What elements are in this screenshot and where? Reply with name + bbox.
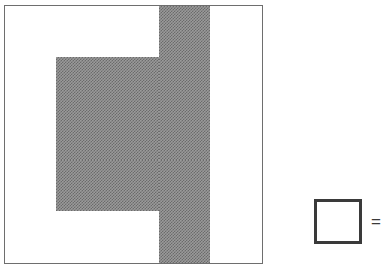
legend: = [314, 199, 381, 244]
grid-cell [159, 211, 212, 264]
grid-cell [56, 211, 109, 264]
grid-cell [210, 5, 263, 58]
grid-cell [4, 211, 57, 264]
grid-cell [159, 108, 212, 161]
grid-cell [4, 5, 57, 58]
legend-swatch-unshaded-square [314, 199, 362, 244]
grid-cell [210, 211, 263, 264]
grid-cell [159, 5, 212, 58]
shaded-grid [4, 5, 222, 264]
grid-cell [159, 160, 212, 213]
grid-cell [4, 108, 57, 161]
grid-cell [4, 57, 57, 110]
grid-cell [4, 160, 57, 213]
grid-cell [159, 57, 212, 110]
grid-cell [56, 108, 109, 161]
grid-cell [107, 160, 160, 213]
grid-cell [107, 57, 160, 110]
grid-cell [56, 57, 109, 110]
grid-cell [107, 108, 160, 161]
grid-cell [56, 160, 109, 213]
grid-cell [210, 160, 263, 213]
grid-cell [210, 57, 263, 110]
grid-cell [56, 5, 109, 58]
grid-cell [210, 108, 263, 161]
grid-cell [107, 211, 160, 264]
legend-equals-sign: = [371, 213, 381, 230]
grid-cell [107, 5, 160, 58]
